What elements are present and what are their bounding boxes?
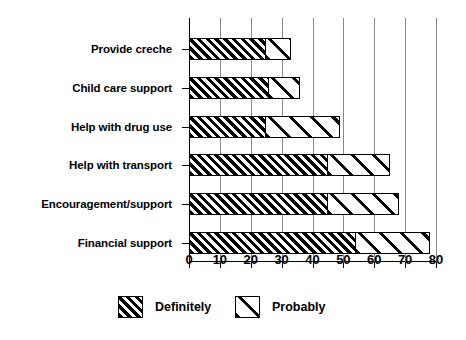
- bar-segment-definitely: [189, 154, 328, 176]
- category-label-3: Help with transport: [0, 159, 172, 171]
- bar-chart: Provide crecheChild care supportHelp wit…: [0, 0, 466, 340]
- legend-swatch-icon-probably: [235, 296, 260, 318]
- x-tick-label-0: 0: [176, 252, 202, 267]
- bar-group: [189, 193, 399, 215]
- bar-segment-definitely: [189, 77, 269, 99]
- bar-group: [189, 77, 300, 99]
- y-tick-0: [182, 49, 189, 50]
- bar-group: [189, 116, 340, 138]
- gridline-60: [374, 18, 375, 262]
- bar-segment-probably: [355, 232, 430, 254]
- category-label-0: Provide creche: [0, 43, 172, 55]
- x-tick-label-20: 20: [238, 252, 264, 267]
- legend-swatch-icon-definitely: [118, 296, 143, 318]
- category-label-4: Encouragement/support: [0, 198, 172, 210]
- gridline-50: [343, 18, 344, 262]
- gridline-40: [313, 18, 314, 262]
- bar-segment-definitely: [189, 232, 356, 254]
- x-tick-label-50: 50: [330, 252, 356, 267]
- bar-segment-definitely: [189, 193, 328, 215]
- bar-segment-probably: [327, 193, 399, 215]
- x-tick-label-80: 80: [423, 252, 449, 267]
- y-tick-4: [182, 204, 189, 205]
- chart-legend: DefinitelyProbably: [0, 292, 466, 332]
- bar-segment-probably: [265, 38, 291, 60]
- category-axis-labels: Provide crecheChild care supportHelp wit…: [0, 0, 180, 262]
- gridline-80: [436, 18, 437, 262]
- plot-area: [189, 18, 436, 262]
- bar-segment-definitely: [189, 38, 266, 60]
- y-tick-2: [182, 127, 189, 128]
- bar-segment-probably: [327, 154, 390, 176]
- y-tick-5: [182, 243, 189, 244]
- legend-item-probably[interactable]: Probably: [235, 292, 326, 322]
- category-label-1: Child care support: [0, 82, 172, 94]
- category-label-2: Help with drug use: [0, 121, 172, 133]
- gridline-70: [405, 18, 406, 262]
- legend-label: Definitely: [155, 300, 211, 314]
- x-tick-label-70: 70: [392, 252, 418, 267]
- x-tick-label-60: 60: [361, 252, 387, 267]
- x-tick-label-30: 30: [269, 252, 295, 267]
- legend-label: Probably: [272, 300, 326, 314]
- y-tick-1: [182, 88, 189, 89]
- bar-group: [189, 38, 291, 60]
- bar-group: [189, 232, 430, 254]
- category-label-5: Financial support: [0, 237, 172, 249]
- x-tick-label-10: 10: [207, 252, 233, 267]
- legend-item-definitely[interactable]: Definitely: [118, 292, 211, 322]
- bar-segment-probably: [265, 116, 340, 138]
- y-tick-3: [182, 165, 189, 166]
- bar-group: [189, 154, 390, 176]
- bar-segment-probably: [268, 77, 300, 99]
- bar-segment-definitely: [189, 116, 266, 138]
- x-tick-label-40: 40: [300, 252, 326, 267]
